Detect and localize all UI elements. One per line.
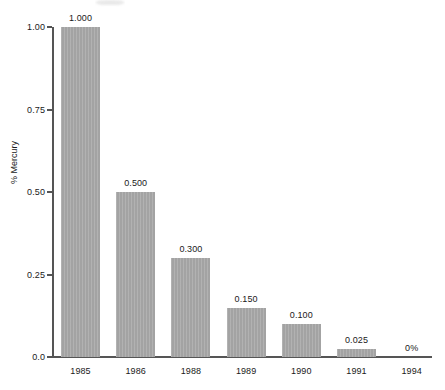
x-tick-label: 1986: [106, 367, 165, 376]
bar: [337, 349, 376, 357]
bar-value-label: 0%: [382, 344, 441, 353]
y-tick-mark: [47, 26, 52, 28]
bar: [116, 192, 155, 357]
y-tick-mark: [47, 356, 52, 358]
x-tick-label: 1990: [272, 367, 331, 376]
scan-artifact: [96, 0, 124, 5]
bar-value-label: 0.025: [327, 336, 386, 345]
x-tick-label: 1989: [217, 367, 276, 376]
y-tick-label: 1.00: [5, 23, 45, 32]
x-tick-label: 1988: [161, 367, 220, 376]
y-tick-mark: [47, 274, 52, 276]
bar-chart: % Mercury 1.000.750.500.250.0 1.0000.500…: [0, 0, 445, 390]
y-tick-label: 0.25: [5, 271, 45, 280]
y-tick-label: 0.75: [5, 106, 45, 115]
x-tick-label: 1994: [382, 367, 441, 376]
y-tick-label: 0.0: [5, 353, 45, 362]
y-axis-line: [52, 27, 54, 358]
bar-value-label: 0.100: [272, 311, 331, 320]
x-tick-label: 1991: [327, 367, 386, 376]
bar: [171, 258, 210, 357]
bar-value-label: 0.300: [161, 245, 220, 254]
bar: [282, 324, 321, 357]
x-tick-label: 1985: [51, 367, 110, 376]
bar: [227, 308, 266, 358]
bar-value-label: 0.150: [217, 295, 276, 304]
bar-value-label: 0.500: [106, 179, 165, 188]
y-tick-label: 0.50: [5, 188, 45, 197]
y-tick-mark: [47, 109, 52, 111]
bar: [61, 27, 100, 357]
y-tick-mark: [47, 191, 52, 193]
bar-value-label: 1.000: [51, 14, 110, 23]
